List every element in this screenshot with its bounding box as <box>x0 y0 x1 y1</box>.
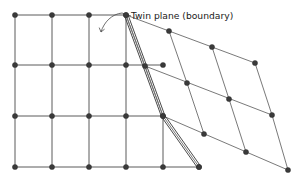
lattice-node <box>196 164 201 169</box>
lattice-node <box>123 62 128 67</box>
lattice-node <box>12 164 17 169</box>
lattice-node <box>243 149 248 154</box>
lattice-node <box>209 44 214 49</box>
lattice-node <box>201 131 206 136</box>
lattice-node <box>12 113 17 118</box>
lattice-node <box>86 62 91 67</box>
lattice-node <box>160 62 165 67</box>
lattice-node <box>160 113 165 118</box>
lattice-node <box>252 60 257 65</box>
lattice-node <box>226 96 231 101</box>
lattice-node <box>49 113 54 118</box>
lattice-node <box>166 28 171 33</box>
lattice-node <box>12 12 17 17</box>
lattice-node <box>123 12 128 17</box>
lattice-node <box>49 12 54 17</box>
lattice-node <box>49 164 54 169</box>
lattice-node <box>269 112 274 117</box>
lattice-node <box>160 164 165 169</box>
annotation-label-group: Twin plane (boundary) <box>130 10 233 21</box>
twin-plane-lattice-figure: Twin plane (boundary) <box>0 0 298 192</box>
lattice-node <box>49 62 54 67</box>
lattice-node <box>285 167 290 172</box>
lattice-node <box>142 63 147 68</box>
figure-background <box>0 0 298 192</box>
lattice-node <box>184 80 189 85</box>
lattice-node <box>86 164 91 169</box>
lattice-node <box>86 113 91 118</box>
twin-plane-label: Twin plane (boundary) <box>130 10 233 21</box>
lattice-node <box>123 113 128 118</box>
lattice-node <box>86 12 91 17</box>
lattice-node <box>123 164 128 169</box>
lattice-node <box>12 62 17 67</box>
